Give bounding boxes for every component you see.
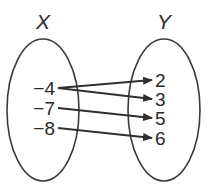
mapping-arrow-icon bbox=[58, 128, 152, 138]
mapping-diagram: X Y −4 −7 −8 2 3 5 6 bbox=[0, 0, 208, 187]
mapping-arrow-icon bbox=[58, 108, 152, 118]
range-element: 6 bbox=[155, 128, 166, 149]
range-set-label: Y bbox=[157, 10, 173, 33]
range-element: 3 bbox=[155, 89, 166, 110]
domain-set-label: X bbox=[35, 10, 51, 33]
range-element: 2 bbox=[155, 70, 166, 91]
mapping-arrow-icon bbox=[58, 80, 152, 88]
domain-element: −7 bbox=[33, 98, 55, 119]
range-element: 5 bbox=[155, 108, 166, 129]
domain-element: −4 bbox=[33, 78, 55, 99]
domain-element: −8 bbox=[33, 118, 55, 139]
mapping-arrow-icon bbox=[58, 88, 152, 99]
